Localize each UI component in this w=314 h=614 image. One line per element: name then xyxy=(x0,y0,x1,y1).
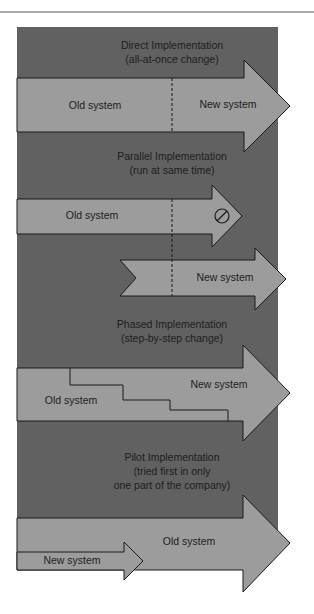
old-system-label: Old system xyxy=(66,209,119,221)
section-title: Pilot Implementation xyxy=(124,451,219,463)
new-system-label: New system xyxy=(43,554,100,566)
section-subtitle: (run at same time) xyxy=(129,164,214,176)
old-system-label: Old system xyxy=(69,99,122,111)
implementation-methods-diagram: Direct Implementation (all-at-once chang… xyxy=(0,0,314,614)
section-title: Parallel Implementation xyxy=(117,150,227,162)
old-system-label: Old system xyxy=(163,535,216,547)
old-system-label: Old system xyxy=(45,394,98,406)
section-subtitle-line-2: one part of the company) xyxy=(114,479,231,491)
section-title: Phased Implementation xyxy=(117,318,227,330)
new-system-label: New system xyxy=(199,98,256,110)
section-subtitle: (step-by-step change) xyxy=(121,332,223,344)
new-system-label: New system xyxy=(196,271,253,283)
section-subtitle: (all-at-once change) xyxy=(125,53,218,65)
section-subtitle-line-1: (tried first in only xyxy=(133,465,211,477)
section-title: Direct Implementation xyxy=(121,39,223,51)
new-system-label: New system xyxy=(190,378,247,390)
